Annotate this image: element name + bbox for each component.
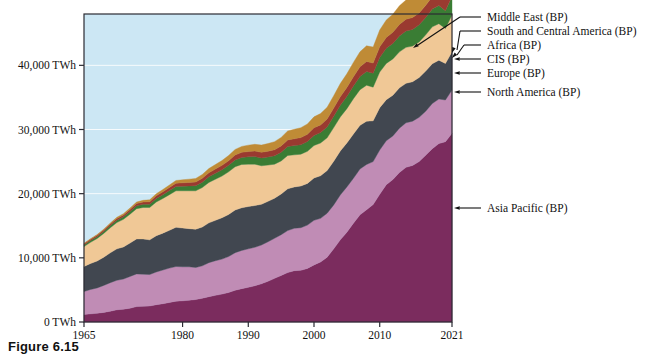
stacked-area-chart: 0 TWh10,000 TWh20,000 TWh30,000 TWh40,00… [0,0,653,362]
figure-caption: Figure 6.15 [8,339,79,354]
series-label-south-and-central-america-bp: South and Central America (BP) [487,25,637,38]
y-tick-label-1: 10,000 TWh [18,252,76,265]
annotation-elbow-south-and-central-america-bp [457,31,460,50]
series-label-middle-east-bp: Middle East (BP) [487,11,568,24]
series-label-cis-bp: CIS (BP) [487,53,530,66]
x-tick-label-4: 2010 [368,329,391,341]
annotation-arrowhead-cis-bp [454,57,460,61]
x-tick-label-5: 2021 [441,329,464,341]
series-label-asia-pacific-bp: Asia Pacific (BP) [487,202,568,215]
y-tick-label-4: 40,000 TWh [18,59,76,72]
annotation-arrowhead-europe-bp [454,71,460,75]
series-label-north-america-bp: North America (BP) [487,86,580,99]
annotation-arrowhead-north-america-bp [454,90,460,94]
series-label-europe-bp: Europe (BP) [487,67,545,80]
x-tick-label-1: 1980 [171,329,194,341]
annotation-arrowhead-africa-bp [452,53,457,58]
annotation-arrowhead-south-and-central-america-bp [452,47,456,53]
y-tick-label-2: 20,000 TWh [18,188,76,201]
x-tick-label-3: 2000 [303,329,326,341]
y-tick-label-3: 30,000 TWh [18,124,76,137]
annotation-arrowhead-asia-pacific-bp [454,206,460,210]
series-label-africa-bp: Africa (BP) [487,39,541,52]
figure-container: 0 TWh10,000 TWh20,000 TWh30,000 TWh40,00… [0,0,653,362]
x-tick-label-2: 1990 [237,329,260,341]
y-tick-label-0: 0 TWh [44,316,76,328]
